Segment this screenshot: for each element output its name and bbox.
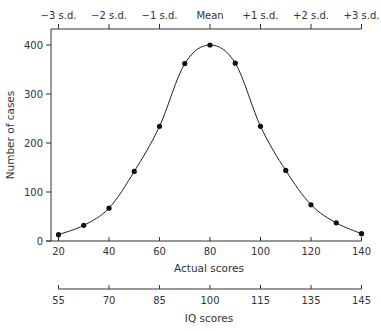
data-point xyxy=(258,124,263,129)
iq-tick-label: 100 xyxy=(200,295,219,306)
sd-tick-label: −1 s.d. xyxy=(142,10,178,21)
x-tick-label: 100 xyxy=(251,246,270,257)
data-point xyxy=(81,223,86,228)
data-point xyxy=(106,206,111,211)
data-point xyxy=(334,220,339,225)
distribution-curve xyxy=(59,45,362,235)
data-point xyxy=(132,169,137,174)
data-point xyxy=(359,231,364,236)
top-sd-axis: −3 s.d.−2 s.d.−1 s.d.Mean+1 s.d.+2 s.d.+… xyxy=(41,10,380,29)
x-axis-iq-scores: 557085100115135145 xyxy=(52,285,371,306)
sd-tick-label: −2 s.d. xyxy=(91,10,127,21)
y-axis: 0100200300400 xyxy=(24,29,51,247)
x-axis-actual-scores: 20406080100120140 xyxy=(46,237,371,257)
iq-tick-label: 135 xyxy=(301,295,320,306)
data-point xyxy=(233,61,238,66)
iq-tick-label: 115 xyxy=(251,295,270,306)
data-point-markers xyxy=(56,42,364,237)
x-tick-label: 120 xyxy=(301,246,320,257)
y-tick-label: 0 xyxy=(37,236,43,247)
y-tick-label: 400 xyxy=(24,40,43,51)
iq-axis-title: IQ scores xyxy=(185,312,233,324)
x-axis-title: Actual scores xyxy=(174,262,244,274)
sd-tick-label: +1 s.d. xyxy=(243,10,279,21)
sd-tick-label: +2 s.d. xyxy=(293,10,329,21)
sd-tick-label: −3 s.d. xyxy=(41,10,77,21)
data-point xyxy=(283,168,288,173)
iq-tick-label: 55 xyxy=(52,295,65,306)
x-tick-label: 60 xyxy=(153,246,166,257)
data-point xyxy=(157,124,162,129)
y-tick-label: 300 xyxy=(24,89,43,100)
x-tick-label: 20 xyxy=(52,246,65,257)
y-axis-title: Number of cases xyxy=(4,91,16,180)
iq-tick-label: 85 xyxy=(153,295,166,306)
y-tick-label: 100 xyxy=(24,187,43,198)
x-tick-label: 80 xyxy=(204,246,217,257)
data-point xyxy=(56,232,61,237)
sd-tick-label: Mean xyxy=(196,10,223,21)
data-point xyxy=(308,202,313,207)
x-tick-label: 40 xyxy=(103,246,116,257)
y-tick-label: 200 xyxy=(24,138,43,149)
x-tick-label: 140 xyxy=(352,246,371,257)
iq-tick-label: 70 xyxy=(103,295,116,306)
data-point xyxy=(207,42,212,47)
iq-tick-label: 145 xyxy=(352,295,371,306)
data-point xyxy=(182,61,187,66)
sd-tick-label: +3 s.d. xyxy=(344,10,380,21)
normal-distribution-chart: −3 s.d.−2 s.d.−1 s.d.Mean+1 s.d.+2 s.d.+… xyxy=(0,0,381,331)
